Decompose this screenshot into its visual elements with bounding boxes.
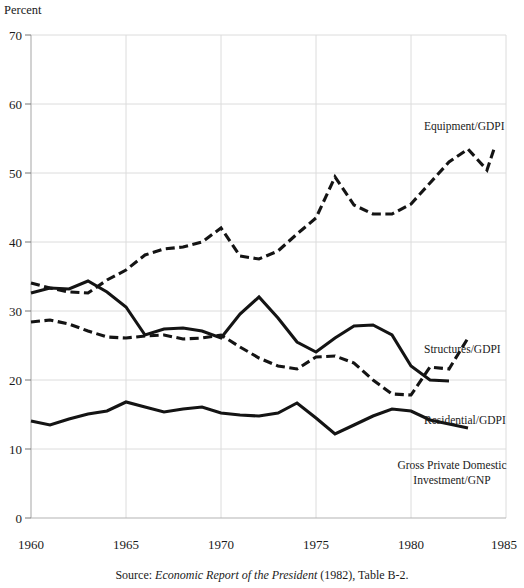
ytick-label-30: 30 [9,304,22,319]
y-axis-unit-label: Percent [4,3,42,17]
investment-shares-line-chart: Percent [0,0,524,588]
series-label-structures-gdpi: Structures/GDPI [424,343,501,355]
figure-container: Percent [0,0,524,588]
series-label-residential-gdpi: Residential/GDPI [424,414,506,426]
series-line-equipment-gdpi [31,146,495,293]
xtick-label-1985: 1985 [491,537,517,552]
ytick-label-60: 60 [9,97,22,112]
ytick-label-70: 70 [9,28,22,43]
series-line-residential-gdpi [31,281,449,381]
ytick-label-0: 0 [16,511,23,526]
series-line-gpdi-gnp [31,402,468,434]
ytick-label-40: 40 [9,235,22,250]
source-caption-title: Economic Report of the President [154,568,318,582]
source-caption-prefix: Source: [115,568,155,582]
xtick-label-1960: 1960 [18,537,44,552]
series-label-equipment-gdpi: Equipment/GDPI [424,120,505,133]
series-line-structures-gdpi [31,320,468,395]
source-caption-suffix: (1982), Table B-2. [317,568,408,582]
horizontal-gridlines [31,35,506,449]
ytick-label-10: 10 [9,442,22,457]
series-label-gpdi-gnp-line2: Investment/GNP [413,474,490,486]
xtick-label-1970: 1970 [208,537,234,552]
xtick-label-1965: 1965 [113,537,139,552]
y-tick-marks [25,35,31,518]
source-caption: Source: Economic Report of the President… [115,568,408,582]
xtick-label-1980: 1980 [398,537,424,552]
series-label-gpdi-gnp-line1: Gross Private Domestic [397,459,506,471]
xtick-label-1975: 1975 [303,537,329,552]
ytick-label-20: 20 [9,373,22,388]
vertical-gridlines [126,35,506,518]
ytick-label-50: 50 [9,166,22,181]
